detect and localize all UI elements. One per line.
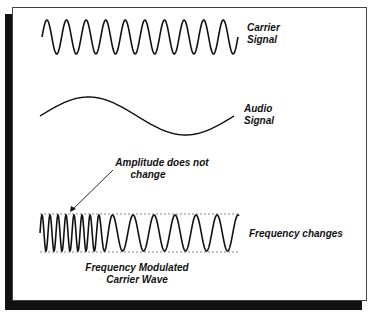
fm-diagram: Carrier Signal Audio Signal Amplitude do… — [0, 0, 369, 313]
fm-caption-line1: Frequency Modulated — [85, 262, 189, 273]
fm-caption-line2: Carrier Wave — [106, 274, 168, 285]
fm-side-label: Frequency changes — [249, 228, 343, 239]
carrier-label-line1: Carrier — [247, 22, 281, 33]
annotation-arrow-line — [72, 170, 113, 210]
fm-wave — [40, 215, 239, 251]
audio-wave — [40, 97, 234, 135]
audio-label-line2: Signal — [244, 115, 274, 126]
audio-label-line1: Audio — [243, 103, 272, 114]
carrier-wave — [42, 20, 238, 54]
carrier-label-line2: Signal — [247, 34, 277, 45]
annotation-line1: Amplitude does not — [114, 157, 209, 168]
annotation-line2: change — [130, 169, 165, 180]
